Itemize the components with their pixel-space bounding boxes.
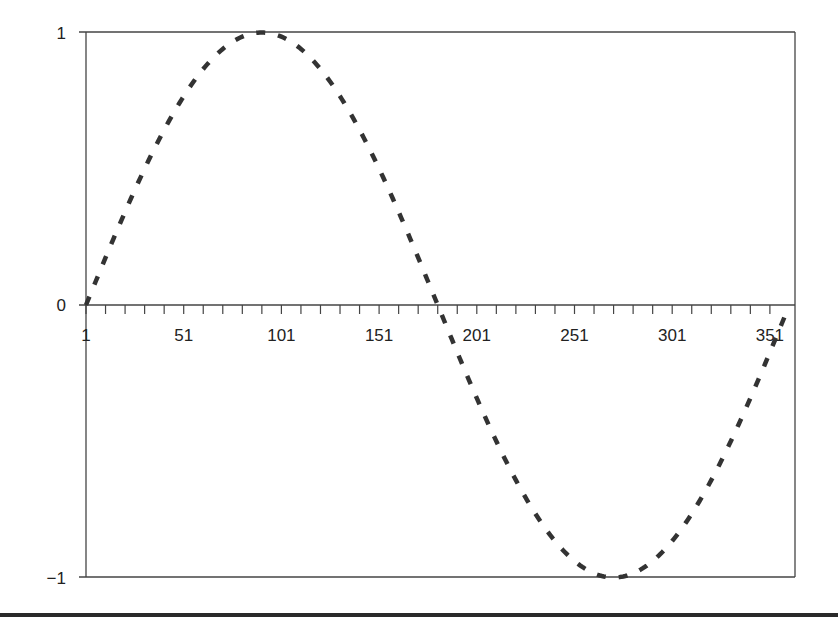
- x-tick-label: 51: [174, 326, 193, 345]
- x-axis-ticks: [86, 305, 770, 314]
- x-tick-label: 251: [560, 326, 588, 345]
- y-axis-tick-labels: 10−1: [47, 24, 66, 588]
- y-tick-label: 0: [57, 296, 66, 315]
- x-tick-label: 101: [267, 326, 295, 345]
- y-tick-label: 1: [57, 24, 66, 43]
- sine-line-chart: 151101151201251301351 10−1: [0, 0, 838, 617]
- x-tick-label: 301: [658, 326, 686, 345]
- x-tick-label: 201: [463, 326, 491, 345]
- plot-frame: [79, 32, 795, 577]
- x-axis-tick-labels: 151101151201251301351: [81, 326, 784, 345]
- x-tick-label: 151: [365, 326, 393, 345]
- x-tick-label: 1: [81, 326, 90, 345]
- bottom-border-band: [0, 613, 838, 617]
- y-tick-label: −1: [47, 569, 66, 588]
- x-tick-label: 351: [756, 326, 784, 345]
